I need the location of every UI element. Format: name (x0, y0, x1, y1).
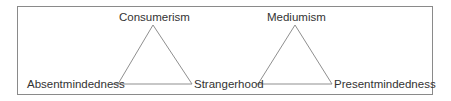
triangle-2-right-label: Presentmindedness (334, 79, 436, 91)
triangle-1-right-label: Strangerhood (194, 79, 264, 91)
triangle-2 (256, 25, 332, 84)
triangle-2-top-label: Mediumism (267, 12, 326, 24)
triangle-1 (113, 25, 192, 84)
triangle-1-left-label: Absentmindedness (27, 79, 125, 91)
triangle-1-sides (118, 25, 192, 84)
triangle-2-sides (258, 25, 332, 84)
triangle-1-top-label: Consumerism (119, 12, 190, 24)
